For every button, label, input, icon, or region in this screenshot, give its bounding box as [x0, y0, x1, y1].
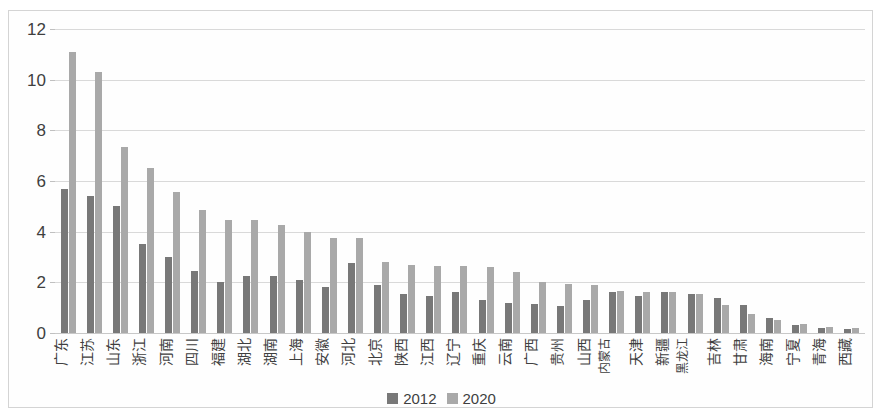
legend-item-2020[interactable]: 2020 [447, 391, 496, 406]
x-label-cell: 河南 [160, 335, 186, 397]
bar-group[interactable] [839, 29, 865, 333]
y-tick-label-4: 4 [37, 223, 46, 240]
bar-2020[interactable] [539, 282, 546, 333]
bar-2020[interactable] [696, 294, 703, 333]
bar-group[interactable] [55, 29, 81, 333]
bar-group[interactable] [160, 29, 186, 333]
bar-2020[interactable] [565, 284, 572, 333]
bar-group[interactable] [264, 29, 290, 333]
bar-group[interactable] [81, 29, 107, 333]
bar-2012[interactable] [688, 294, 695, 333]
bar-2012[interactable] [661, 292, 668, 333]
bar-group[interactable] [107, 29, 133, 333]
bar-group[interactable] [734, 29, 760, 333]
bar-2012[interactable] [322, 287, 329, 333]
y-tick-label-8: 8 [37, 122, 46, 139]
bar-2020[interactable] [225, 220, 232, 333]
bar-2020[interactable] [304, 232, 311, 333]
bar-2012[interactable] [635, 296, 642, 333]
bar-group[interactable] [656, 29, 682, 333]
bar-2020[interactable] [382, 262, 389, 333]
bar-2020[interactable] [278, 225, 285, 333]
bar-group[interactable] [316, 29, 342, 333]
bar-2020[interactable] [826, 327, 833, 333]
bar-group[interactable] [473, 29, 499, 333]
bar-2020[interactable] [852, 328, 859, 333]
bar-2012[interactable] [243, 276, 250, 333]
bar-2012[interactable] [792, 325, 799, 333]
bar-2012[interactable] [583, 300, 590, 333]
bar-2012[interactable] [740, 305, 747, 333]
bar-2012[interactable] [609, 292, 616, 333]
bar-2020[interactable] [460, 266, 467, 333]
bar-group[interactable] [212, 29, 238, 333]
bar-2012[interactable] [400, 294, 407, 333]
bar-group[interactable] [342, 29, 368, 333]
bar-group[interactable] [447, 29, 473, 333]
bar-group[interactable] [787, 29, 813, 333]
bar-group[interactable] [395, 29, 421, 333]
bar-2012[interactable] [531, 304, 538, 333]
bar-group[interactable] [630, 29, 656, 333]
bar-2012[interactable] [296, 280, 303, 333]
bar-group[interactable] [290, 29, 316, 333]
bar-2020[interactable] [356, 238, 363, 333]
bar-2020[interactable] [774, 320, 781, 333]
bar-group[interactable] [708, 29, 734, 333]
bar-2020[interactable] [643, 292, 650, 333]
bar-2012[interactable] [844, 329, 851, 333]
bar-group[interactable] [551, 29, 577, 333]
bar-group[interactable] [813, 29, 839, 333]
bar-2012[interactable] [374, 285, 381, 333]
bar-2020[interactable] [199, 210, 206, 333]
bar-group[interactable] [369, 29, 395, 333]
bar-group[interactable] [499, 29, 525, 333]
bar-group[interactable] [760, 29, 786, 333]
bar-2020[interactable] [251, 220, 258, 333]
bar-2012[interactable] [714, 298, 721, 333]
bar-2020[interactable] [591, 285, 598, 333]
bar-2012[interactable] [505, 303, 512, 333]
bar-2012[interactable] [87, 196, 94, 333]
bar-2012[interactable] [191, 271, 198, 333]
bar-2012[interactable] [61, 189, 68, 333]
bar-2020[interactable] [800, 324, 807, 333]
bar-2012[interactable] [270, 276, 277, 333]
bar-2020[interactable] [95, 72, 102, 333]
x-axis-label: 甘肃 [733, 338, 747, 366]
bar-group[interactable] [682, 29, 708, 333]
bar-2012[interactable] [217, 282, 224, 333]
bar-2020[interactable] [748, 314, 755, 333]
bar-2012[interactable] [818, 328, 825, 333]
bar-2012[interactable] [479, 300, 486, 333]
bar-group[interactable] [578, 29, 604, 333]
bar-2020[interactable] [434, 266, 441, 333]
bar-2012[interactable] [348, 263, 355, 333]
bar-2020[interactable] [722, 305, 729, 333]
bar-group[interactable] [133, 29, 159, 333]
bar-2020[interactable] [173, 192, 180, 333]
bar-2020[interactable] [487, 267, 494, 333]
bar-group[interactable] [525, 29, 551, 333]
bar-2012[interactable] [113, 206, 120, 333]
bar-2020[interactable] [513, 272, 520, 333]
bar-2012[interactable] [557, 306, 564, 333]
bar-2020[interactable] [147, 168, 154, 333]
bar-group[interactable] [421, 29, 447, 333]
bar-2020[interactable] [121, 147, 128, 333]
bar-group[interactable] [238, 29, 264, 333]
bar-group[interactable] [604, 29, 630, 333]
bar-2012[interactable] [766, 318, 773, 333]
bar-2020[interactable] [69, 52, 76, 333]
bar-2012[interactable] [426, 296, 433, 333]
bar-2012[interactable] [139, 244, 146, 333]
bar-2020[interactable] [669, 292, 676, 333]
bar-2012[interactable] [165, 257, 172, 333]
bar-2020[interactable] [408, 265, 415, 333]
bar-group[interactable] [186, 29, 212, 333]
bar-2020[interactable] [330, 238, 337, 333]
bar-2020[interactable] [617, 291, 624, 333]
x-axis-label: 河北 [341, 338, 355, 366]
legend-item-2012[interactable]: 2012 [387, 391, 436, 406]
bar-2012[interactable] [452, 292, 459, 333]
